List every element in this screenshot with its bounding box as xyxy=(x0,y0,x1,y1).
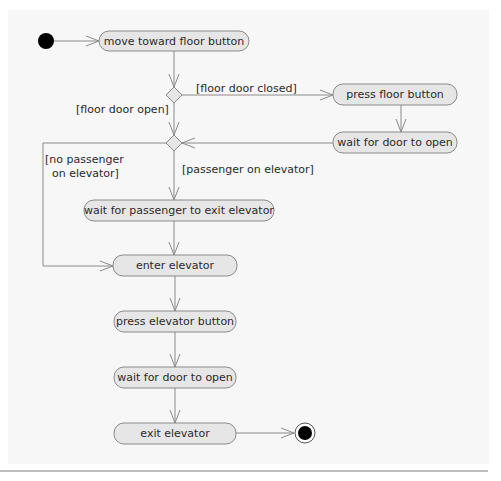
activity-exit-elevator: exit elevator xyxy=(114,423,236,444)
guard-no-passenger-line2: on elevator] xyxy=(52,167,119,180)
svg-text:press elevator button: press elevator button xyxy=(116,315,234,328)
activity-diagram: move toward floor button [floor door clo… xyxy=(0,0,501,481)
svg-text:wait for door to open: wait for door to open xyxy=(117,371,233,384)
svg-text:wait for door to open: wait for door to open xyxy=(337,136,453,149)
svg-text:exit elevator: exit elevator xyxy=(140,427,210,440)
initial-node xyxy=(38,33,54,49)
activity-wait-for-passenger-to-exit: wait for passenger to exit elevator xyxy=(84,200,274,221)
activity-press-floor-button: press floor button xyxy=(333,84,457,105)
guard-floor-door-open: [floor door open] xyxy=(76,103,169,116)
svg-text:wait for passenger to exit ele: wait for passenger to exit elevator xyxy=(84,204,274,217)
final-node xyxy=(298,426,312,440)
guard-passenger-on-elevator: [passenger on elevator] xyxy=(182,163,314,176)
activity-enter-elevator: enter elevator xyxy=(113,255,237,276)
svg-text:move toward floor button: move toward floor button xyxy=(104,35,245,48)
decision-node-floor-door xyxy=(166,87,182,103)
activity-wait-for-door-to-open-1: wait for door to open xyxy=(333,132,457,153)
activity-move-toward-floor-button: move toward floor button xyxy=(99,31,249,51)
svg-text:enter elevator: enter elevator xyxy=(136,259,215,272)
svg-text:press floor button: press floor button xyxy=(346,88,444,101)
decision-node-passenger xyxy=(166,135,182,151)
guard-no-passenger-line1: [no passenger xyxy=(45,153,124,166)
activity-press-elevator-button: press elevator button xyxy=(114,311,236,332)
guard-floor-door-closed: [floor door closed] xyxy=(196,82,297,95)
activity-wait-for-door-to-open-2: wait for door to open xyxy=(114,367,236,388)
